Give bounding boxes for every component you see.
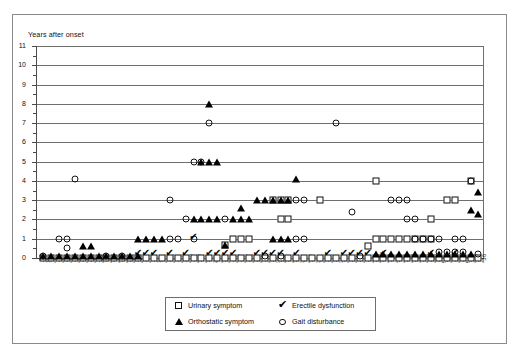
data-point-open-circle [206,120,213,127]
data-point-open-circle [63,245,70,252]
data-point-filled-triangle [213,216,221,223]
gridline-y-4 [36,181,484,182]
y-tick-minor [33,133,36,134]
data-point-open-square [174,255,181,262]
data-point-check-mark: ✔ [379,248,387,258]
data-point-filled-triangle [292,175,300,182]
data-point-filled-triangle [79,243,87,250]
y-tick-6 [32,142,37,143]
data-point-filled-triangle [474,189,482,196]
data-point-check-mark: ✔ [451,248,459,258]
data-point-open-square [277,216,284,223]
data-point-open-square [317,255,324,262]
data-point-filled-triangle [474,210,482,217]
y-tick-0 [32,258,37,259]
data-point-open-circle [435,249,442,256]
data-point-check-mark: ✔ [276,248,284,258]
data-point-open-circle [348,208,355,215]
data-point-open-square [230,235,237,242]
y-tick-label-3: 3 [4,196,26,203]
y-tick-1 [32,239,37,240]
data-point-open-circle [174,235,181,242]
data-point-filled-triangle [205,158,213,165]
data-point-filled-triangle [387,251,395,258]
y-tick-label-8: 8 [4,100,26,107]
y-tick-minor [33,210,36,211]
data-point-filled-triangle [47,253,55,260]
data-point-open-square [404,235,411,242]
data-point-open-circle [388,197,395,204]
filled-triangle-icon [174,317,183,326]
legend-row-2: Orthostatic symptom Gait disturbance [174,317,344,326]
legend-item-erectile-dysfunction[interactable]: ✔ Erectile dysfunction [278,301,354,310]
data-point-filled-triangle [245,216,253,223]
y-tick-minor [33,171,36,172]
y-tick-8 [32,104,37,105]
data-point-filled-triangle [95,253,103,260]
data-point-filled-triangle [269,197,277,204]
data-point-open-square [285,255,292,262]
data-point-open-circle [222,216,229,223]
legend-item-urinary-symptom[interactable]: Urinary symptom [174,301,278,310]
data-point-open-circle [427,235,434,242]
data-point-open-circle [475,251,482,258]
y-tick-3 [32,200,37,201]
data-point-open-square [285,216,292,223]
data-point-open-circle [190,158,197,165]
data-point-filled-triangle [229,216,237,223]
data-point-check-mark: ✔ [427,248,435,258]
y-tick-10 [32,65,37,66]
y-tick-label-0: 0 [4,254,26,261]
y-tick-7 [32,123,37,124]
y-tick-label-7: 7 [4,119,26,126]
data-point-open-circle [198,158,205,165]
data-point-filled-triangle [277,235,285,242]
y-tick-minor [33,152,36,153]
y-tick-minor [33,56,36,57]
data-point-open-circle [459,235,466,242]
data-point-open-square [388,235,395,242]
data-point-filled-triangle [55,253,63,260]
data-point-open-circle [293,235,300,242]
data-point-open-circle [301,197,308,204]
data-point-filled-triangle [403,251,411,258]
data-point-open-square [427,216,434,223]
data-point-filled-triangle [79,253,87,260]
y-tick-9 [32,85,37,86]
data-point-open-square [158,255,165,262]
data-point-open-circle [103,253,110,260]
figure-canvas: Years after onset 01234567891011 1*2*3*4… [0,0,519,358]
data-point-check-mark: ✔ [363,248,371,258]
gridline-y-6 [36,142,484,143]
data-point-open-circle [435,235,442,242]
data-point-open-square [245,235,252,242]
data-point-filled-triangle [87,253,95,260]
data-point-filled-triangle [284,235,292,242]
y-tick-minor [33,248,36,249]
data-point-open-circle [55,235,62,242]
data-point-filled-triangle [71,253,79,260]
legend-box: Urinary symptom ✔ Erectile dysfunction O… [165,297,376,331]
data-point-open-square [190,255,197,262]
data-point-filled-triangle [284,197,292,204]
legend-item-orthostatic-symptom[interactable]: Orthostatic symptom [174,317,278,326]
plot-area [36,46,484,258]
data-point-open-circle [119,253,126,260]
y-tick-minor [33,229,36,230]
gridline-y-11 [36,46,484,47]
y-tick-label-1: 1 [4,235,26,242]
gridline-y-9 [36,85,484,86]
legend-item-gait-disturbance[interactable]: Gait disturbance [278,317,344,326]
data-point-filled-triangle [269,235,277,242]
data-point-filled-triangle [142,235,150,242]
data-point-open-square [309,255,316,262]
open-circle-icon [278,317,287,326]
gridline-y-10 [36,65,484,66]
data-point-open-circle [40,253,47,260]
data-point-open-circle [420,235,427,242]
open-square-icon [174,301,183,310]
data-point-filled-triangle [467,206,475,213]
legend-label: Erectile dysfunction [292,301,354,310]
data-point-open-square [451,197,458,204]
legend-label: Orthostatic symptom [188,317,254,326]
